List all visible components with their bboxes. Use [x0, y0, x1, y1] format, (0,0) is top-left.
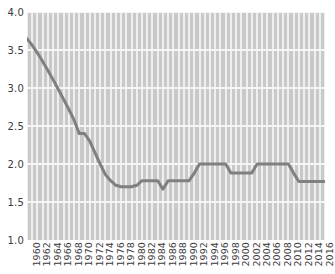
y-axis: 1.01.52.02.53.03.54.0 — [0, 0, 27, 274]
y-axis-tick-label: 2.0 — [7, 159, 24, 170]
x-axis-tick-label: 1966 — [62, 242, 73, 267]
y-axis-tick-label: 1.5 — [7, 197, 24, 208]
y-axis-tick-label: 4.0 — [7, 7, 24, 18]
x-axis: 1960196219641966196819701972197419761978… — [27, 242, 325, 274]
x-axis-tick-label: 1988 — [177, 242, 188, 267]
x-axis-tick-label: 2016 — [324, 242, 335, 267]
x-axis-tick-label: 1974 — [104, 242, 115, 267]
x-axis-tick-label: 1984 — [156, 242, 167, 267]
data-series-line — [27, 12, 325, 240]
x-axis-tick-label: 2010 — [292, 242, 303, 267]
x-axis-tick-label: 2014 — [313, 242, 324, 267]
y-axis-tick-label: 2.5 — [7, 121, 24, 132]
x-axis-tick-label: 1976 — [115, 242, 126, 267]
x-axis-tick-label: 1980 — [136, 242, 147, 267]
x-axis-tick-label: 1962 — [41, 242, 52, 267]
y-axis-tick-label: 3.0 — [7, 83, 24, 94]
x-axis-tick-label: 1978 — [125, 242, 136, 267]
x-axis-tick-label: 1970 — [83, 242, 94, 267]
x-axis-tick-label: 1992 — [198, 242, 209, 267]
x-axis-tick-label: 2000 — [240, 242, 251, 267]
x-axis-tick-label: 2002 — [251, 242, 262, 267]
x-axis-tick-label: 1998 — [230, 242, 241, 267]
x-axis-tick-label: 1996 — [219, 242, 230, 267]
y-axis-tick-label: 3.5 — [7, 45, 24, 56]
plot-area — [27, 12, 325, 240]
y-axis-tick-label: 1.0 — [7, 235, 24, 246]
x-axis-tick-label: 2006 — [271, 242, 282, 267]
